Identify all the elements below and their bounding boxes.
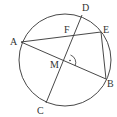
label-C: C (37, 105, 44, 116)
segment-EB (101, 32, 106, 79)
label-D: D (82, 2, 89, 13)
label-E: E (103, 24, 109, 35)
segment-AE (21, 32, 101, 42)
label-M: M (50, 59, 59, 70)
label-A: A (10, 36, 18, 47)
label-B: B (107, 78, 114, 89)
label-F: F (64, 24, 70, 35)
right-angle-dot-icon (69, 60, 71, 62)
geometry-diagram: A B C D E F M (0, 0, 117, 117)
